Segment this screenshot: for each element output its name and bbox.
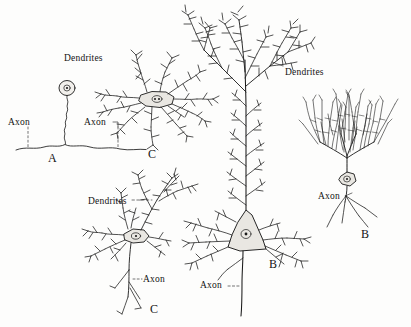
panel-letter-a: A	[48, 152, 57, 164]
neuron-types-figure: Axon A Dendrites Axon C Dendrites Axon C…	[0, 0, 411, 327]
axon-label-c-upper: Axon	[84, 118, 106, 128]
dendrites-label-lower: Dendrites	[88, 197, 127, 207]
axon-label-c-lower: Axon	[143, 275, 165, 285]
apical-trunk-b-center	[245, 60, 246, 210]
axon-label-a: Axon	[8, 118, 30, 128]
dendrites-label-upper: Dendrites	[64, 54, 103, 64]
dendrites-label-center: Dendrites	[285, 68, 324, 78]
soma-b-center	[228, 210, 266, 251]
axon-label-b-right: Axon	[318, 192, 340, 202]
neuron-c-upper-multipolar	[95, 50, 219, 150]
panel-letter-c-upper: C	[148, 148, 156, 160]
axon-b-center	[241, 251, 243, 316]
panel-letter-c-lower: C	[150, 303, 158, 315]
stalk-a	[64, 96, 68, 145]
neuron-a-unipolar	[16, 81, 146, 151]
panel-letter-b-right: B	[361, 228, 369, 240]
axon-fibre-a	[16, 145, 146, 151]
neuron-b-right-purkinje	[299, 89, 398, 227]
panel-letter-b-center: B	[269, 258, 277, 270]
neuron-illustration-canvas	[0, 0, 411, 327]
axon-bracket-c-upper	[113, 122, 118, 127]
axon-label-b-center: Axon	[200, 281, 222, 291]
neuron-b-center-pyramidal	[182, 5, 315, 316]
axon-b-right	[345, 186, 347, 202]
neuron-c-lower-multipolar	[82, 168, 198, 314]
